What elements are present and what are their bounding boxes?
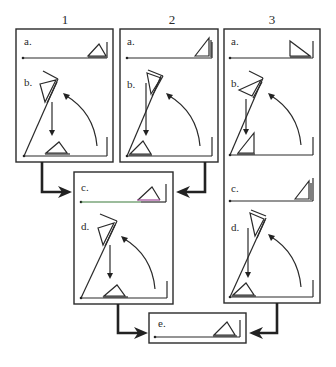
connector-center-to-final xyxy=(118,304,148,339)
column-label-2: 2 xyxy=(169,12,176,27)
panel-center-label-d: d. xyxy=(81,220,90,232)
column-label-1: 1 xyxy=(62,12,69,27)
panel-2a-figure xyxy=(126,38,212,59)
panel-center-label-c: c. xyxy=(81,181,89,193)
panel-1-label-a: a. xyxy=(24,35,32,47)
panel-3b-figure xyxy=(229,71,313,156)
panel-3-label-d: d. xyxy=(231,221,240,233)
panel-final: e. xyxy=(149,313,246,343)
process-diagram: 1 2 3 a. b. xyxy=(0,0,336,367)
panel-3-label-c: c. xyxy=(231,182,239,194)
panel-3-label-a: a. xyxy=(231,35,239,47)
panel-center-d-figure xyxy=(80,214,167,299)
panel-3a-figure xyxy=(229,41,313,59)
panel-3d-figure xyxy=(229,210,313,298)
panel-3-label-b: b. xyxy=(231,77,240,89)
panel-2-label-a: a. xyxy=(127,35,135,47)
panel-1: a. b. xyxy=(16,29,113,162)
panel-1a-figure xyxy=(22,42,107,59)
panel-final-label-e: e. xyxy=(158,317,166,329)
panel-final-figure xyxy=(154,320,240,338)
panel-2-label-b: b. xyxy=(127,78,136,90)
panel-3c-figure xyxy=(229,178,313,202)
panel-2: a. b. xyxy=(120,29,218,162)
panel-1b-figure xyxy=(23,71,107,157)
panel-2b-figure xyxy=(126,70,212,157)
panel-3-frame xyxy=(224,29,320,303)
panel-center: c. d. xyxy=(74,172,173,304)
connector-1-to-center xyxy=(42,162,72,198)
panel-1-label-b: b. xyxy=(24,76,33,88)
panel-center-c-figure xyxy=(80,184,166,203)
panel-3: a. b. c. xyxy=(224,29,320,303)
connector-3-to-final xyxy=(249,303,277,339)
connector-2-to-center xyxy=(176,162,205,198)
column-label-3: 3 xyxy=(269,12,276,27)
